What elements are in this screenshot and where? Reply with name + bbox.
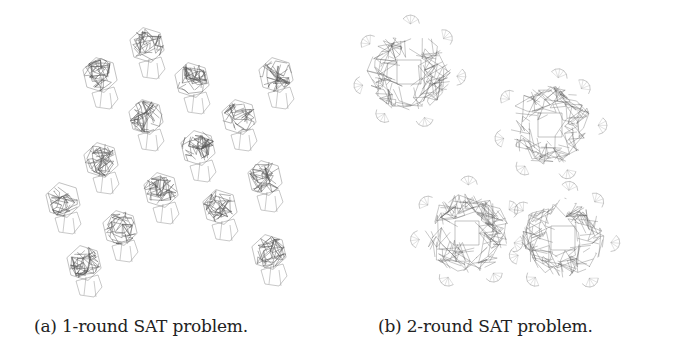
graph-cluster <box>103 211 138 262</box>
graph-cluster-large <box>495 69 607 179</box>
graph-cluster <box>252 235 287 286</box>
graph-cluster <box>46 183 81 234</box>
caption-b: (b) 2-round SAT problem. <box>378 316 593 336</box>
graph-cluster <box>181 131 216 182</box>
graph-cluster-large <box>411 176 523 286</box>
panel-b-graph <box>342 0 684 305</box>
graph-cluster <box>175 63 210 114</box>
graph-cluster <box>129 100 164 151</box>
graph-cluster <box>130 28 165 79</box>
graph-cluster <box>144 173 179 224</box>
graph-cluster <box>67 246 102 297</box>
graph-cluster-large <box>354 15 466 126</box>
graph-cluster <box>259 58 294 109</box>
graph-cluster <box>203 190 238 241</box>
graph-cluster <box>248 161 283 212</box>
caption-a: (a) 1-round SAT problem. <box>34 316 248 336</box>
graph-cluster <box>222 100 257 151</box>
graph-cluster-large <box>509 181 620 287</box>
graph-cluster <box>84 143 119 194</box>
graph-visualization-1-round <box>0 0 342 305</box>
graph-visualization-2-round <box>342 0 684 305</box>
graph-cluster <box>83 58 118 109</box>
panel-a-graph <box>0 0 342 305</box>
